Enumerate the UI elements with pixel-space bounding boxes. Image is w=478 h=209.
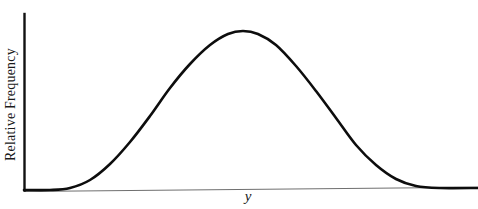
normal-distribution-curve — [24, 31, 478, 190]
bell-curve-figure: Relative Frequency y — [0, 0, 478, 209]
x-axis-title: y — [0, 188, 478, 205]
distribution-plot — [0, 0, 478, 209]
x-axis-title-text: y — [245, 188, 252, 204]
